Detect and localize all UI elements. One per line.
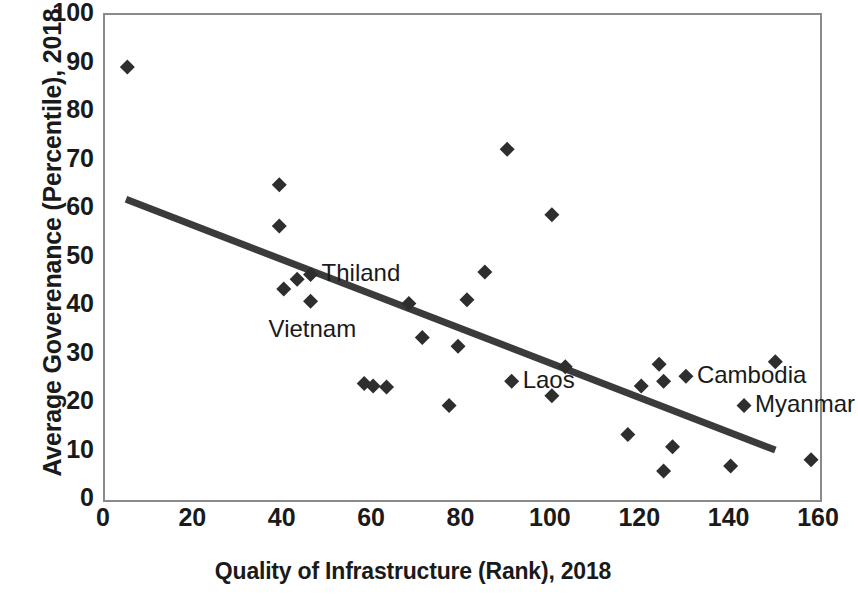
plot-canvas [105, 15, 820, 500]
x-tick-label: 0 [63, 505, 143, 530]
y-tick-label: 40 [24, 291, 94, 316]
data-point-marker [678, 369, 693, 384]
x-tick-label: 120 [599, 505, 679, 530]
plot-area: ThilandVietnamLaosCambodiaMyanmar [103, 13, 822, 502]
y-tick-label: 70 [24, 146, 94, 171]
x-tick-label: 40 [242, 505, 322, 530]
y-tick-label: 10 [24, 437, 94, 462]
y-tick-label: 60 [24, 194, 94, 219]
x-tick-label: 80 [421, 505, 501, 530]
y-tick-label: 90 [24, 49, 94, 74]
x-tick-label: 60 [331, 505, 411, 530]
y-tick-label: 20 [24, 388, 94, 413]
data-point-marker [665, 439, 680, 454]
data-point-marker [620, 427, 635, 442]
data-point-marker [272, 218, 287, 233]
data-point-marker [804, 452, 819, 467]
data-point-label: Thiland [322, 261, 401, 285]
trendline [126, 199, 775, 450]
y-tick-label: 80 [24, 97, 94, 122]
data-point-marker [656, 463, 671, 478]
trendline-path [126, 199, 775, 450]
data-point-marker [634, 379, 649, 394]
data-point-marker [451, 339, 466, 354]
data-point-marker [544, 207, 559, 222]
y-tick-label: 30 [24, 340, 94, 365]
data-point-marker [737, 398, 752, 413]
data-point-label: Cambodia [697, 363, 806, 387]
x-axis-title: Quality of Infrastructure (Rank), 2018 [0, 558, 826, 585]
data-point-label: Vietnam [269, 317, 357, 341]
data-point-marker [442, 398, 457, 413]
data-point-marker [120, 59, 135, 74]
data-point-marker [656, 374, 671, 389]
data-point-marker [276, 282, 291, 297]
data-point-marker [652, 357, 667, 372]
data-point-marker [723, 459, 738, 474]
y-tick-label: 50 [24, 243, 94, 268]
data-point-marker [459, 292, 474, 307]
data-point-label: Laos [523, 368, 575, 392]
data-point-marker [290, 272, 305, 287]
data-point-marker [272, 177, 287, 192]
data-point-marker [303, 294, 318, 309]
x-tick-label: 160 [778, 505, 858, 530]
data-point-marker [415, 330, 430, 345]
x-tick-label: 100 [510, 505, 590, 530]
data-point-marker [477, 265, 492, 280]
data-point-marker [504, 374, 519, 389]
x-tick-label: 140 [689, 505, 769, 530]
x-tick-label: 20 [152, 505, 232, 530]
data-point-marker [379, 379, 394, 394]
y-tick-label: 100 [24, 0, 94, 25]
data-point-label: Myanmar [755, 392, 855, 416]
data-point-marker [500, 142, 515, 157]
data-points [120, 59, 819, 478]
